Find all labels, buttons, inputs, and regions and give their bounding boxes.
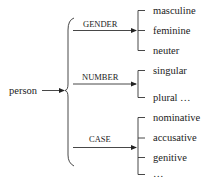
value-plural: plural …	[153, 92, 191, 103]
value-masculine: masculine	[153, 5, 196, 16]
number-bracket	[138, 71, 145, 98]
value-ellipsis: …	[153, 168, 164, 179]
value-accusative: accusative	[153, 132, 197, 143]
value-nominative: nominative	[153, 112, 201, 123]
main-brace	[65, 18, 74, 166]
value-singular: singular	[153, 65, 187, 76]
value-neuter: neuter	[153, 45, 180, 56]
case-bracket	[138, 118, 145, 175]
category-label-gender: GENDER	[83, 19, 118, 29]
value-genitive: genitive	[153, 152, 187, 163]
root-label: person	[9, 85, 38, 96]
gender-bracket	[138, 11, 145, 51]
category-label-number: NUMBER	[82, 72, 119, 82]
feature-tree-diagram: person GENDER masculine feminine neuter …	[0, 0, 211, 187]
category-label-case: CASE	[89, 134, 111, 144]
value-feminine: feminine	[153, 25, 191, 36]
